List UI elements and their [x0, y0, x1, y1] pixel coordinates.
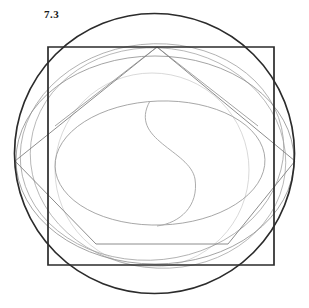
inscribed-pentagon	[15, 47, 295, 244]
tilted-ellipse-a	[9, 31, 294, 273]
tilted-ellipse-b	[18, 33, 299, 283]
s-curve	[145, 101, 195, 226]
inner-ellipse	[53, 97, 267, 228]
pentagon-spoke-right	[157, 47, 258, 126]
pentagon-spoke-left	[55, 47, 157, 126]
faint-inner-circle	[55, 73, 249, 267]
bounding-square	[48, 47, 274, 265]
geometric-line-drawing	[0, 0, 309, 308]
wide-ellipse-upper	[16, 56, 294, 264]
figure-container: 7.3	[0, 0, 309, 308]
